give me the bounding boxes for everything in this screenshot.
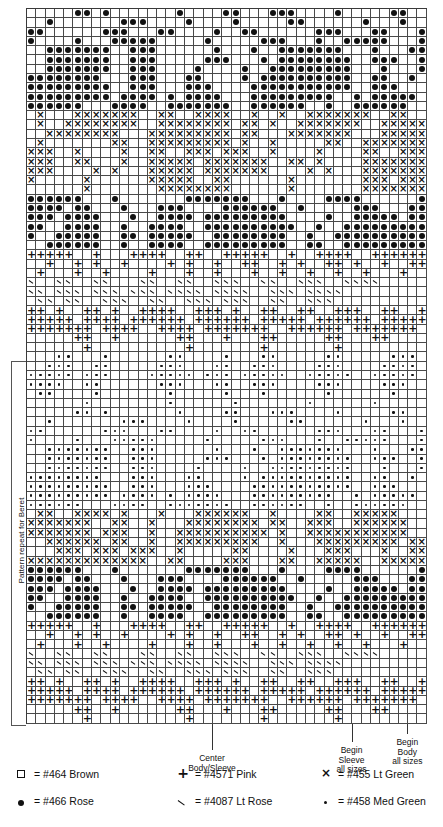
chart-cell [325,130,334,139]
chart-cell [166,297,175,306]
chart-cell [64,241,73,250]
chart-cell [139,18,148,27]
chart-cell [148,195,157,204]
color-legend: = #464 Brown+= #4571 Pink×= #455 Lt Gree… [0,762,443,827]
chart-cell [250,167,259,176]
chart-cell [185,352,194,361]
chart-cell [222,538,231,547]
chart-cell [157,603,166,612]
chart-cell [232,250,241,259]
chart-cell [148,659,157,668]
chart-cell [269,176,278,185]
chart-cell [139,687,148,696]
chart-cell [64,417,73,426]
chart-cell [362,18,371,27]
chart-cell [129,9,138,18]
chart-cell [380,492,389,501]
chart-cell [129,343,138,352]
chart-cell [362,46,371,55]
chart-cell [36,371,45,380]
chart-cell [315,482,324,491]
chart-cell [194,649,203,658]
chart-cell [352,584,361,593]
chart-cell [399,640,408,649]
chart-cell [55,622,64,631]
chart-cell [371,158,380,167]
chart-cell [269,111,278,120]
chart-cell [36,631,45,640]
chart-cell [185,46,194,55]
chart-cell [64,260,73,269]
legend-label: = #458 Med Green [338,793,426,809]
chart-cell [241,362,250,371]
chart-cell [176,55,185,64]
chart-cell [399,417,408,426]
chart-cell [64,232,73,241]
chart-cell [157,269,166,278]
chart-cell [129,594,138,603]
legend-label: = #464 Brown [34,766,99,782]
chart-cell [399,111,408,120]
chart-cell [278,352,287,361]
chart-cell [390,492,399,501]
chart-cell [297,436,306,445]
chart-cell [222,102,231,111]
chart-cell [222,575,231,584]
chart-cell [297,668,306,677]
chart-cell [362,111,371,120]
chart-cell [166,65,175,74]
chart-cell [352,510,361,519]
chart-cell [278,584,287,593]
chart-cell [204,46,213,55]
chart-cell [241,547,250,556]
chart-cell [120,130,129,139]
chart-cell [92,631,101,640]
chart-cell [36,343,45,352]
chart-cell [371,352,380,361]
chart-cell [390,185,399,194]
chart-cell [204,547,213,556]
chart-cell [166,250,175,259]
chart-cell [417,575,426,584]
chart-cell [55,83,64,92]
chart-cell [101,659,110,668]
chart-cell [139,649,148,658]
chart-cell [139,278,148,287]
chart-cell [46,241,55,250]
chart-cell [241,325,250,334]
chart-cell [390,362,399,371]
chart-cell [297,399,306,408]
chart-cell [185,37,194,46]
chart-cell [222,241,231,250]
chart-cell [232,260,241,269]
chart-cell [139,380,148,389]
chart-cell [139,352,148,361]
chart-cell [408,232,417,241]
chart-cell [269,640,278,649]
chart-cell [315,343,324,352]
chart-cell [250,148,259,157]
chart-cell [213,9,222,18]
chart-cell [148,102,157,111]
chart-cell [157,649,166,658]
chart-cell [194,417,203,426]
chart-cell [259,362,268,371]
chart-cell [36,566,45,575]
chart-cell [148,343,157,352]
chart-cell [362,158,371,167]
chart-cell [232,158,241,167]
chart-cell [73,380,82,389]
chart-cell [27,185,36,194]
chart-cell [194,176,203,185]
chart-cell [176,714,185,723]
chart-cell [27,482,36,491]
chart-cell [194,445,203,454]
chart-cell [101,93,110,102]
chart-cell [399,232,408,241]
chart-cell [101,677,110,686]
chart-cell [139,46,148,55]
chart-cell [408,390,417,399]
chart-cell [101,232,110,241]
chart-cell [269,241,278,250]
chart-cell [278,519,287,528]
